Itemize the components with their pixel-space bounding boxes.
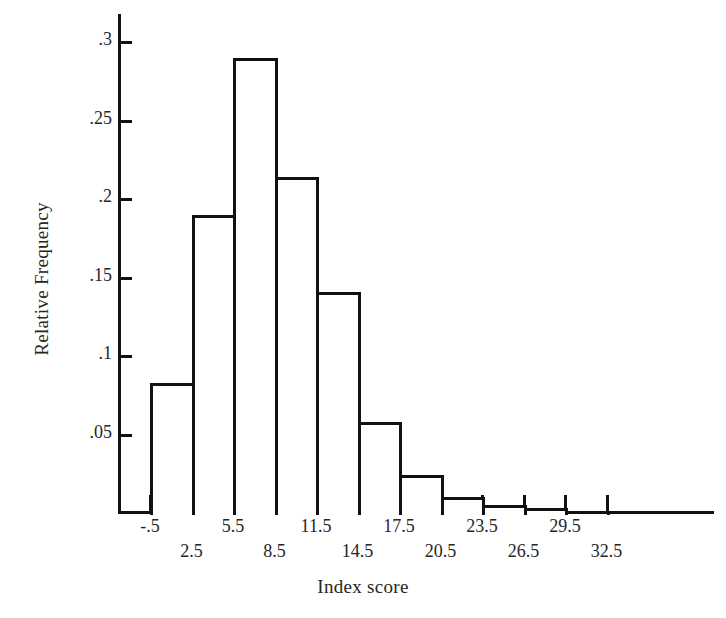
y-tick-label: .25 <box>56 108 112 129</box>
y-tick-label: .05 <box>56 422 112 443</box>
x-tick-label: 32.5 <box>591 541 623 562</box>
histogram-bar <box>358 422 403 515</box>
histogram-bar <box>316 292 361 515</box>
x-tick-label: 20.5 <box>425 541 457 562</box>
y-tick-mark <box>121 434 132 437</box>
x-tick-label: 2.5 <box>180 541 203 562</box>
histogram-bar <box>482 505 527 515</box>
histogram-bar <box>275 177 320 515</box>
y-tick-mark <box>121 277 132 280</box>
x-tick-mark <box>606 495 609 512</box>
x-tick-label: 11.5 <box>301 516 332 537</box>
x-tick-label: 8.5 <box>263 541 286 562</box>
histogram-chart: Relative Frequency .05.1.15.2.25.3 -.52.… <box>0 0 726 618</box>
x-tick-label: -.5 <box>140 516 160 537</box>
x-tick-label: 23.5 <box>466 516 498 537</box>
x-tick-label: 29.5 <box>549 516 581 537</box>
x-tick-label: 17.5 <box>383 516 415 537</box>
y-tick-mark <box>121 198 132 201</box>
histogram-bar <box>192 215 237 515</box>
y-tick-label: .1 <box>56 343 112 364</box>
y-tick-label: .2 <box>56 186 112 207</box>
x-axis-title: Index score <box>0 576 726 598</box>
histogram-bar <box>399 475 444 515</box>
histogram-bar <box>441 497 486 515</box>
x-tick-label: 14.5 <box>342 541 374 562</box>
y-axis-title: Relative Frequency <box>31 159 53 399</box>
histogram-bar <box>524 508 569 515</box>
x-tick-label: 26.5 <box>508 541 540 562</box>
x-tick-label: 5.5 <box>222 516 245 537</box>
histogram-bar <box>233 58 278 515</box>
y-tick-mark <box>121 355 132 358</box>
y-tick-label: .15 <box>56 265 112 286</box>
histogram-bar <box>150 383 195 515</box>
histogram-bar <box>565 511 610 515</box>
y-tick-label: .3 <box>56 29 112 50</box>
y-axis-line <box>118 14 121 514</box>
y-tick-mark <box>121 120 132 123</box>
y-tick-mark <box>121 41 132 44</box>
